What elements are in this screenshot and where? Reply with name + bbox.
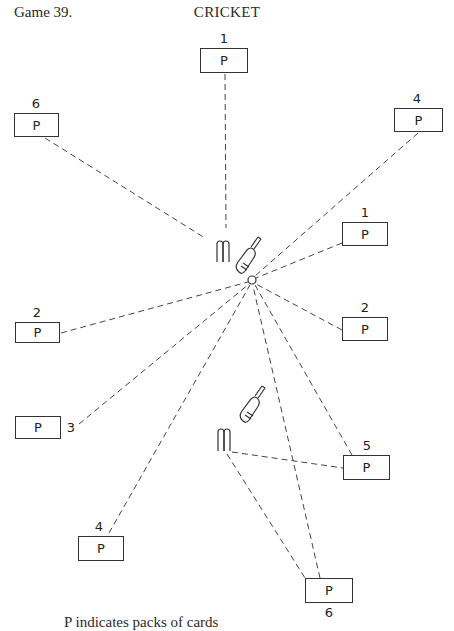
- pack-symbol: P: [415, 113, 423, 128]
- pack-left-2: P: [15, 322, 60, 343]
- pack-number: 1: [355, 205, 375, 220]
- pack-right-1: P: [342, 222, 388, 246]
- pack-symbol: P: [97, 541, 105, 556]
- legend-caption: P indicates packs of cards: [64, 614, 218, 631]
- stumps-icon-batting-end: [217, 241, 229, 262]
- line-to-top-left-6: [45, 138, 205, 238]
- pack-bottom-6: P: [305, 578, 353, 603]
- pack-left-3: P: [15, 416, 61, 439]
- pack-bottom-left-4: P: [78, 536, 124, 561]
- line-wicket-to-right-5: [232, 452, 343, 468]
- line-to-top-right-4: [255, 133, 418, 276]
- pack-symbol: P: [363, 460, 371, 475]
- stumps-icon-bowling-end: [218, 429, 230, 451]
- pack-right-2: P: [342, 317, 388, 341]
- pack-symbol: P: [33, 118, 41, 133]
- line-to-bottom-left-4: [109, 285, 250, 533]
- pack-number: 6: [319, 605, 339, 620]
- pack-number: 4: [89, 519, 109, 534]
- pack-number: 4: [407, 91, 427, 106]
- pack-number: 3: [61, 420, 81, 435]
- pack-symbol: P: [34, 325, 42, 340]
- pack-symbol: P: [325, 583, 333, 598]
- ball-icon: [248, 276, 256, 284]
- pack-symbol: P: [220, 53, 228, 68]
- pack-number: 1: [214, 31, 234, 46]
- pack-top-1: P: [200, 48, 248, 73]
- pack-symbol: P: [361, 322, 369, 337]
- line-to-right-5: [255, 285, 352, 455]
- line-to-left-3: [79, 284, 249, 424]
- pack-symbol: P: [34, 420, 42, 435]
- pack-number: 2: [27, 305, 47, 320]
- pack-top-left-6: P: [14, 113, 59, 137]
- pack-symbol: P: [361, 227, 369, 242]
- line-to-right-1: [256, 243, 342, 278]
- pack-top-right-4: P: [394, 108, 443, 132]
- pack-number: 6: [26, 96, 46, 111]
- line-to-top-1: [225, 74, 226, 228]
- line-wicket-to-bottom-6: [227, 454, 305, 578]
- bat-icon-bowling-end: [240, 386, 265, 422]
- line-to-right-2: [256, 284, 342, 330]
- bat-icon-batting-end: [236, 237, 261, 273]
- pack-number: 2: [355, 300, 375, 315]
- line-to-bottom-6: [253, 286, 320, 578]
- pack-right-5: P: [343, 455, 390, 480]
- pack-number: 5: [357, 438, 377, 453]
